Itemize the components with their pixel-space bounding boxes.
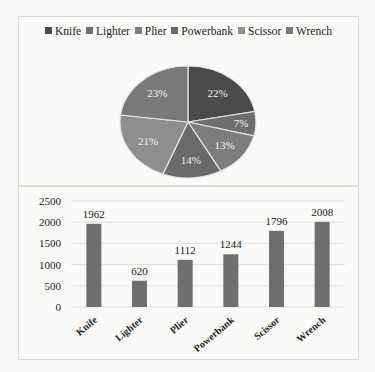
bar-data-label: 1796 bbox=[266, 215, 289, 227]
y-tick-label: 1000 bbox=[39, 259, 62, 271]
y-tick-label: 2500 bbox=[39, 195, 62, 207]
bar-plot: 050010001500200025001962Knife620Lighter1… bbox=[19, 187, 358, 359]
pie-data-label: 21% bbox=[138, 135, 158, 147]
bar-plier bbox=[178, 260, 193, 307]
bar-data-label: 1962 bbox=[83, 208, 105, 220]
pie-data-label: 7% bbox=[234, 117, 249, 129]
bar-data-label: 620 bbox=[131, 265, 148, 277]
x-tick-label: Powerbank bbox=[192, 314, 237, 354]
pie-chart-panel: Knife Lighter Plier Powerbank Scissor Wr… bbox=[18, 16, 359, 186]
pie-data-label: 22% bbox=[207, 87, 227, 99]
bar-data-label: 1112 bbox=[175, 244, 196, 256]
x-tick-label: Wrench bbox=[294, 314, 328, 345]
bar-wrench bbox=[315, 222, 330, 307]
x-tick-label: Knife bbox=[74, 314, 100, 338]
pie-plot: 22%7%13%14%21%23% bbox=[19, 17, 358, 185]
pie-data-label: 13% bbox=[214, 139, 234, 151]
y-tick-label: 2000 bbox=[39, 216, 62, 228]
x-tick-label: Lighter bbox=[113, 314, 145, 343]
bar-lighter bbox=[132, 281, 147, 307]
x-tick-label: Plier bbox=[168, 314, 191, 336]
bar-scissor bbox=[269, 231, 284, 307]
bar-knife bbox=[86, 224, 101, 307]
bar-powerbank bbox=[223, 254, 238, 307]
bar-data-label: 1244 bbox=[220, 238, 243, 250]
bar-chart-panel: 050010001500200025001962Knife620Lighter1… bbox=[18, 186, 359, 360]
y-tick-label: 0 bbox=[56, 301, 62, 313]
y-tick-label: 1500 bbox=[39, 237, 62, 249]
y-tick-label: 500 bbox=[45, 280, 62, 292]
pie-data-label: 14% bbox=[181, 154, 201, 166]
pie-data-label: 23% bbox=[147, 87, 167, 99]
x-tick-label: Scissor bbox=[252, 314, 282, 342]
bar-data-label: 2008 bbox=[311, 206, 334, 218]
